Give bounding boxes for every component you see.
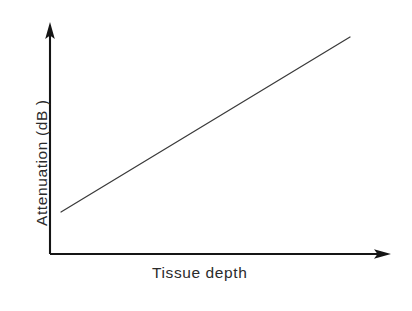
x-axis-label: Tissue depth (152, 264, 247, 282)
y-axis-label: Attenuation (dB ) (33, 99, 51, 226)
data-line-attenuation (61, 37, 350, 212)
attenuation-vs-depth-figure: Attenuation (dB ) Tissue depth (0, 0, 412, 311)
